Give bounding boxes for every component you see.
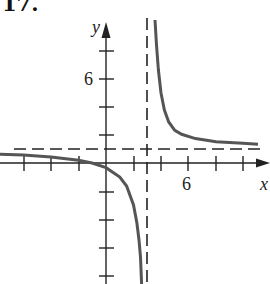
x-axis-arrow-icon — [256, 159, 270, 168]
x-axis-label: x — [259, 174, 268, 194]
y-tick-label: 6 — [84, 69, 93, 89]
left-branch-curve — [0, 154, 142, 284]
graph: y 6 6 x — [0, 0, 270, 284]
y-axis-arrow-icon — [102, 22, 111, 38]
y-axis-label: y — [90, 17, 100, 37]
y-axis — [99, 22, 114, 284]
x-axis — [0, 156, 270, 171]
right-branch-curve — [155, 20, 258, 144]
x-tick-label: 6 — [182, 174, 191, 194]
